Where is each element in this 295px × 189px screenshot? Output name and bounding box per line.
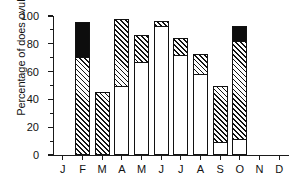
- y-tick-80: [48, 43, 53, 44]
- y-axis-line: [53, 16, 54, 155]
- bar-october: [232, 16, 247, 155]
- x-tick-october: [239, 155, 240, 160]
- x-tick-february: [82, 155, 83, 160]
- bar-february: [75, 16, 90, 155]
- x-tick-label-june: J: [158, 163, 164, 175]
- x-tick-may: [141, 155, 142, 160]
- y-tick-label-60: 60: [27, 66, 39, 78]
- bar-segment-hatched-february: [75, 57, 90, 155]
- x-tick-november: [259, 155, 260, 160]
- x-tick-label-march: M: [98, 163, 107, 175]
- x-tick-label-may: M: [137, 163, 146, 175]
- y-minor-tick-50: [50, 85, 53, 86]
- bar-segment-open-june: [154, 26, 169, 155]
- y-tick-label-100: 100: [21, 10, 39, 22]
- x-tick-label-february: F: [79, 163, 86, 175]
- bar-august: [193, 16, 208, 155]
- y-minor-tick-30: [50, 113, 53, 114]
- bar-april: [114, 16, 129, 155]
- x-tick-december: [279, 155, 280, 160]
- x-tick-label-november: N: [256, 163, 264, 175]
- y-tick-20: [48, 127, 53, 128]
- y-tick-40: [48, 99, 53, 100]
- x-axis-line: [53, 155, 289, 156]
- bar-segment-open-april: [114, 86, 129, 155]
- x-tick-label-september: S: [216, 163, 223, 175]
- x-tick-september: [220, 155, 221, 160]
- bar-march: [95, 16, 110, 155]
- x-tick-june: [161, 155, 162, 160]
- chart-container: Percentage of does ovulating 02040608010…: [0, 0, 295, 189]
- y-tick-label-20: 20: [27, 121, 39, 133]
- bar-segment-open-july: [173, 55, 188, 155]
- plot-area: 020406080100 JFMAMJJASOND: [53, 16, 289, 155]
- bar-may: [134, 16, 149, 155]
- y-tick-100: [48, 15, 53, 16]
- bar-segment-open-may: [134, 62, 149, 155]
- y-tick-label-40: 40: [27, 93, 39, 105]
- y-minor-tick-90: [50, 29, 53, 30]
- x-tick-label-august: A: [197, 163, 204, 175]
- x-tick-january: [62, 155, 63, 160]
- y-tick-label-80: 80: [27, 38, 39, 50]
- y-minor-tick-70: [50, 57, 53, 58]
- x-tick-label-october: O: [236, 163, 245, 175]
- bar-segment-open-october: [232, 139, 247, 155]
- bar-segment-hatched-october: [232, 41, 247, 155]
- bar-september: [213, 16, 228, 155]
- x-tick-april: [121, 155, 122, 160]
- bar-segment-open-september: [213, 142, 228, 155]
- x-tick-july: [180, 155, 181, 160]
- x-tick-label-december: D: [275, 163, 283, 175]
- bar-segment-open-august: [193, 74, 208, 155]
- x-tick-label-july: J: [178, 163, 184, 175]
- x-tick-label-january: J: [60, 163, 66, 175]
- bar-segment-hatched-march: [95, 92, 110, 155]
- x-tick-august: [200, 155, 201, 160]
- y-tick-60: [48, 71, 53, 72]
- y-tick-0: [48, 154, 53, 155]
- x-tick-label-april: A: [118, 163, 125, 175]
- bar-july: [173, 16, 188, 155]
- y-tick-label-0: 0: [33, 149, 39, 161]
- bar-june: [154, 16, 169, 155]
- x-tick-march: [102, 155, 103, 160]
- y-minor-tick-10: [50, 141, 53, 142]
